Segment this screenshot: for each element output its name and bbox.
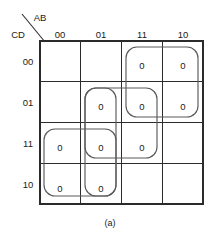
group-loop-bottom-left bbox=[44, 129, 116, 196]
row-header-2: 11 bbox=[23, 138, 33, 149]
cell-r10-c01: 0 bbox=[98, 183, 103, 194]
cell-r00-c10: 0 bbox=[180, 60, 185, 71]
cell-r01-c10: 0 bbox=[180, 101, 185, 112]
cell-r11-c01: 0 bbox=[98, 142, 103, 153]
cell-r11-c11: 0 bbox=[139, 142, 144, 153]
cell-r00-c11: 0 bbox=[139, 60, 144, 71]
column-header-1: 01 bbox=[96, 29, 107, 40]
cell-r01-c01: 0 bbox=[98, 101, 103, 112]
row-header-1: 01 bbox=[23, 97, 34, 108]
cell-r10-c00: 0 bbox=[57, 183, 62, 194]
kmap-grid bbox=[40, 41, 203, 204]
column-header-2: 11 bbox=[137, 29, 147, 40]
axis-label-top: AB bbox=[34, 12, 47, 23]
column-header-0: 00 bbox=[55, 29, 66, 40]
row-header-0: 00 bbox=[23, 56, 34, 67]
axis-label-left: CD bbox=[11, 29, 25, 40]
cell-r11-c00: 0 bbox=[57, 142, 62, 153]
karnaugh-map-figure: AB CD 00 01 11 10 00 01 11 10 bbox=[0, 0, 210, 238]
row-header-3: 10 bbox=[23, 179, 34, 190]
figure-caption: (a) bbox=[105, 218, 116, 228]
column-header-3: 10 bbox=[178, 29, 189, 40]
cell-r01-c11: 0 bbox=[139, 101, 144, 112]
